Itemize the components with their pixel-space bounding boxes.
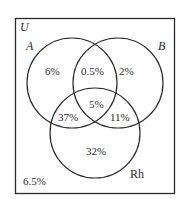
region-b-rh-only: 11% [110, 111, 130, 123]
region-rh-only: 32% [86, 145, 106, 157]
region-none: 6.5% [23, 175, 46, 187]
region-a-b-rh: 5% [89, 98, 104, 110]
region-b-only: 2% [119, 65, 134, 77]
universe-label: U [20, 20, 30, 34]
region-a-only: 6% [45, 65, 60, 77]
region-a-b-only: 0.5% [81, 65, 104, 77]
set-a-label: A [25, 39, 34, 53]
venn-diagram: U A B Rh 6% 0.5% 2% 5% 37% 11% 32% 6.5% [0, 0, 181, 199]
set-b-label: B [158, 39, 166, 53]
set-rh-label: Rh [130, 167, 144, 181]
region-a-rh-only: 37% [58, 111, 78, 123]
